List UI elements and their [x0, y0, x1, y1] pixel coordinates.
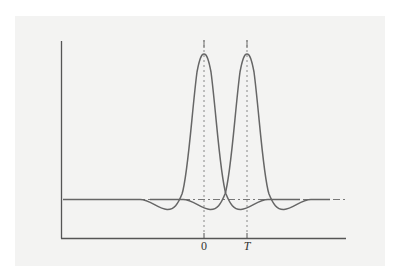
pulse-curve-T: [150, 54, 330, 210]
pulse-diagram: [0, 0, 399, 274]
pulse-curve-0: [63, 54, 300, 210]
x-tick-label-T: T: [244, 239, 251, 254]
x-tick-label-0: 0: [201, 239, 207, 254]
